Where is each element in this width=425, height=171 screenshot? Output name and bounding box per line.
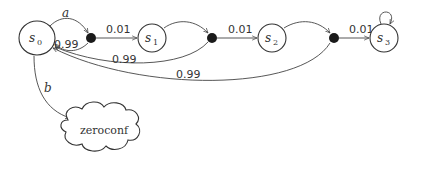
edge-dot3-to-s0: 0.99: [53, 43, 330, 81]
state-s0-subscript: 0: [37, 38, 42, 47]
state-s2-subscript: 2: [273, 38, 278, 47]
state-s3-subscript: 3: [385, 38, 390, 47]
state-s3: s 3: [370, 24, 398, 52]
zeroconf-cloud: zeroconf: [61, 102, 140, 151]
edge-s3-self-loop: [380, 12, 392, 24]
edge-label-a: a: [62, 6, 69, 20]
state-s1-subscript: 1: [153, 38, 158, 47]
edge-label-dot2-s2: 0.01: [228, 23, 253, 36]
state-s3-label: s: [377, 31, 383, 45]
edge-dot3-to-s3: 0.01: [339, 23, 374, 38]
markov-chain-diagram: a 0.99 0.01 0.99 0.01 0.99 0.01: [0, 0, 425, 171]
state-s2-label: s: [265, 31, 271, 45]
edge-s1-to-dot2: [164, 22, 208, 33]
edge-s0-to-zeroconf: b: [34, 56, 70, 118]
choice-node-3: [329, 33, 339, 43]
choice-node-2: [207, 33, 217, 43]
state-s1: s 1: [138, 24, 166, 52]
edge-label-dot3-s0: 0.99: [176, 68, 201, 81]
edge-label-dot1-s0: 0.99: [54, 38, 79, 51]
edge-label-b: b: [44, 81, 52, 95]
zeroconf-label: zeroconf: [80, 124, 129, 137]
edge-dot2-to-s2: 0.01: [217, 23, 257, 38]
state-s0-label: s: [29, 31, 35, 45]
choice-node-1: [86, 33, 96, 43]
edge-dot1-to-s1: 0.01: [96, 23, 137, 38]
edge-s2-to-dot3: [284, 22, 330, 33]
edge-label-dot1-s1: 0.01: [106, 23, 131, 36]
state-s1-label: s: [145, 31, 151, 45]
state-s0: s 0: [19, 21, 55, 55]
state-s2: s 2: [258, 24, 286, 52]
edge-label-dot3-s3: 0.01: [349, 23, 374, 36]
edge-label-dot2-s0: 0.99: [112, 53, 137, 66]
edge-s0-to-dot1: a: [50, 6, 88, 33]
